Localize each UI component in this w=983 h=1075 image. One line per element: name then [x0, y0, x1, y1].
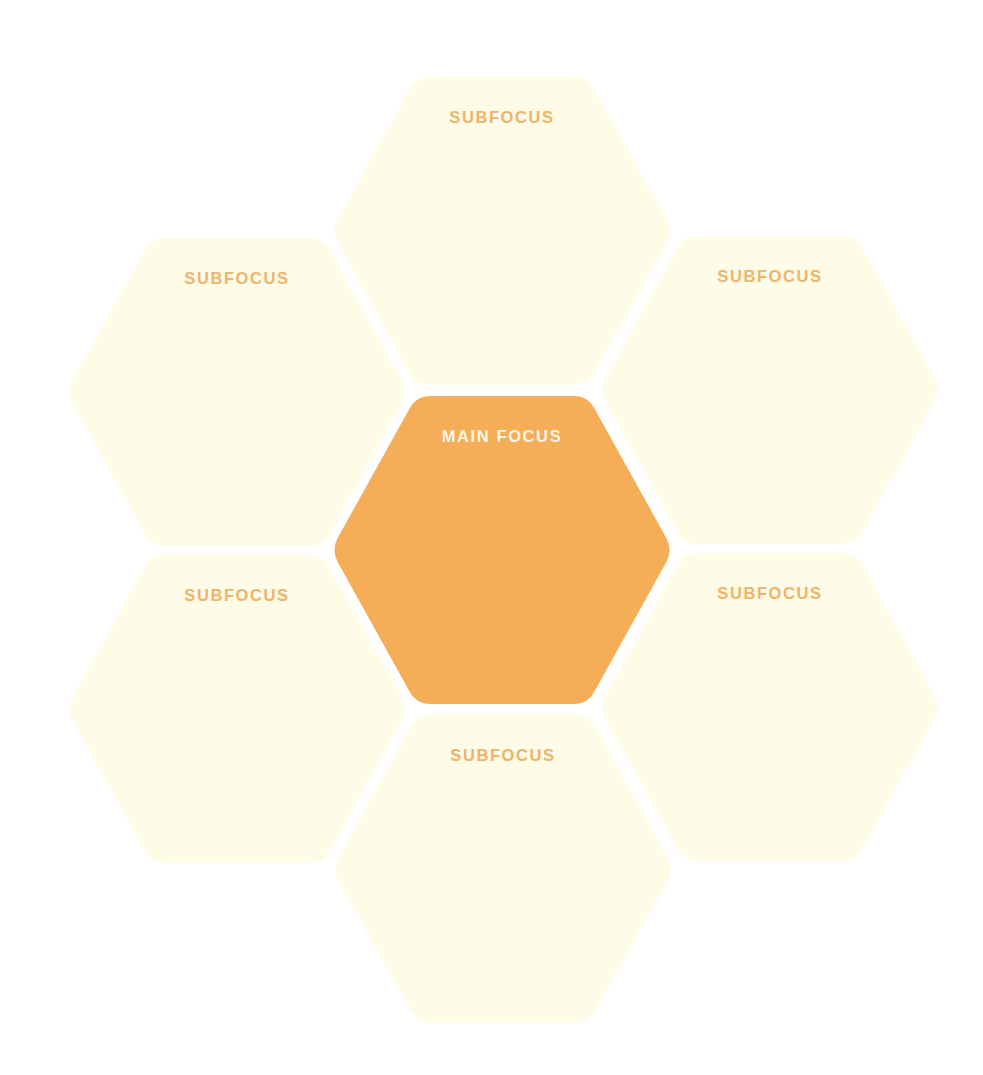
main-focus-label: MAIN FOCUS — [442, 428, 563, 445]
subfocus-label-bottom: SUBFOCUS — [450, 747, 555, 764]
subfocus-label-lower-left: SUBFOCUS — [184, 587, 289, 604]
subfocus-label-upper-right: SUBFOCUS — [717, 268, 822, 285]
subfocus-label-top: SUBFOCUS — [449, 109, 554, 126]
subfocus-label-lower-right: SUBFOCUS — [717, 585, 822, 602]
subfocus-label-upper-left: SUBFOCUS — [184, 270, 289, 287]
hexagon-diagram — [0, 0, 983, 1075]
